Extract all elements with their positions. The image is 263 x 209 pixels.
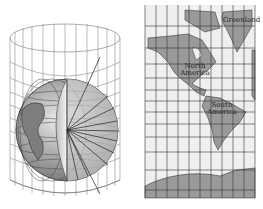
label-south-america: South America xyxy=(205,102,239,116)
mercator-map-graphic xyxy=(140,0,263,209)
globe-in-cylinder-graphic xyxy=(0,0,135,209)
label-greenland: Greenland xyxy=(223,17,257,24)
label-north-america: North America xyxy=(180,63,210,77)
cylinder-projection-illustration xyxy=(0,0,135,209)
mercator-map-panel: Greenland North America South America xyxy=(140,0,263,209)
